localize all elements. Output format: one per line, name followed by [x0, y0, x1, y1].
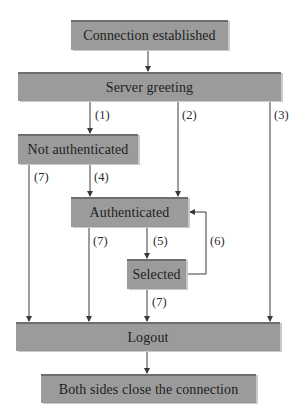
transition-label-2: (2) — [182, 108, 197, 123]
state-connection-established: Connection established — [71, 20, 228, 50]
state-label: Both sides close the connection — [59, 382, 239, 398]
state-not-authenticated: Not authenticated — [18, 134, 138, 164]
transition-label-5: (5) — [153, 234, 168, 249]
transition-label-1: (1) — [95, 108, 110, 123]
state-label: Logout — [127, 330, 168, 346]
state-label: Connection established — [83, 28, 215, 44]
state-label: Authenticated — [90, 205, 170, 221]
state-label: Not authenticated — [28, 142, 129, 158]
transition-label-6: (6) — [210, 234, 225, 249]
transition-label-7-auth: (7) — [93, 234, 108, 249]
state-server-greeting: Server greeting — [18, 72, 281, 101]
transition-label-7-not-auth: (7) — [34, 170, 49, 185]
state-close-connection: Both sides close the connection — [41, 374, 256, 403]
transition-label-3: (3) — [274, 108, 289, 123]
state-label: Server greeting — [106, 80, 193, 96]
transition-label-7-selected: (7) — [152, 295, 167, 310]
state-selected: Selected — [127, 259, 186, 289]
state-logout: Logout — [16, 322, 280, 351]
transition-label-4: (4) — [94, 170, 109, 185]
state-label: Selected — [132, 267, 180, 283]
state-authenticated: Authenticated — [71, 197, 188, 227]
